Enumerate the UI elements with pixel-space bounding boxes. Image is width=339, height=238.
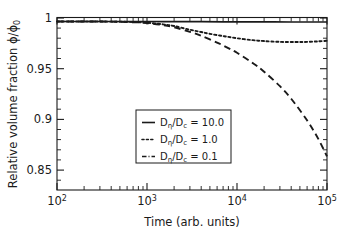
x-axis-minor-ticks [84,18,323,191]
series-line-dotted [57,21,327,42]
x-axis-major-ticks [57,18,327,191]
chart-canvas: 1 0.95 0.9 0.85 102 103 104 105 Time (ar… [0,0,339,238]
legend: Dη/Dc = 10.0 Dη/Dc = 1.0 Dη/Dc = 0.1 [136,110,231,164]
x-axis-tick-labels: 102 103 104 105 [47,194,337,208]
y-tick-label: 0.85 [26,163,52,177]
y-tick-label: 0.9 [34,112,52,126]
x-tick-label: 105 [317,194,337,208]
x-tick-label: 104 [227,194,247,208]
plot-frame [57,18,327,191]
y-tick-label: 0.95 [26,62,52,76]
y-axis-title: Relative volume fraction ϕ/ϕ0 [6,20,22,188]
y-tick-label: 1 [45,11,52,25]
chart-figure: 1 0.95 0.9 0.85 102 103 104 105 Time (ar… [0,0,339,238]
x-tick-label: 102 [47,194,67,208]
x-tick-label: 103 [137,194,157,208]
x-axis-title: Time (arb. units) [143,215,239,229]
y-axis-tick-labels: 1 0.95 0.9 0.85 [26,11,52,177]
